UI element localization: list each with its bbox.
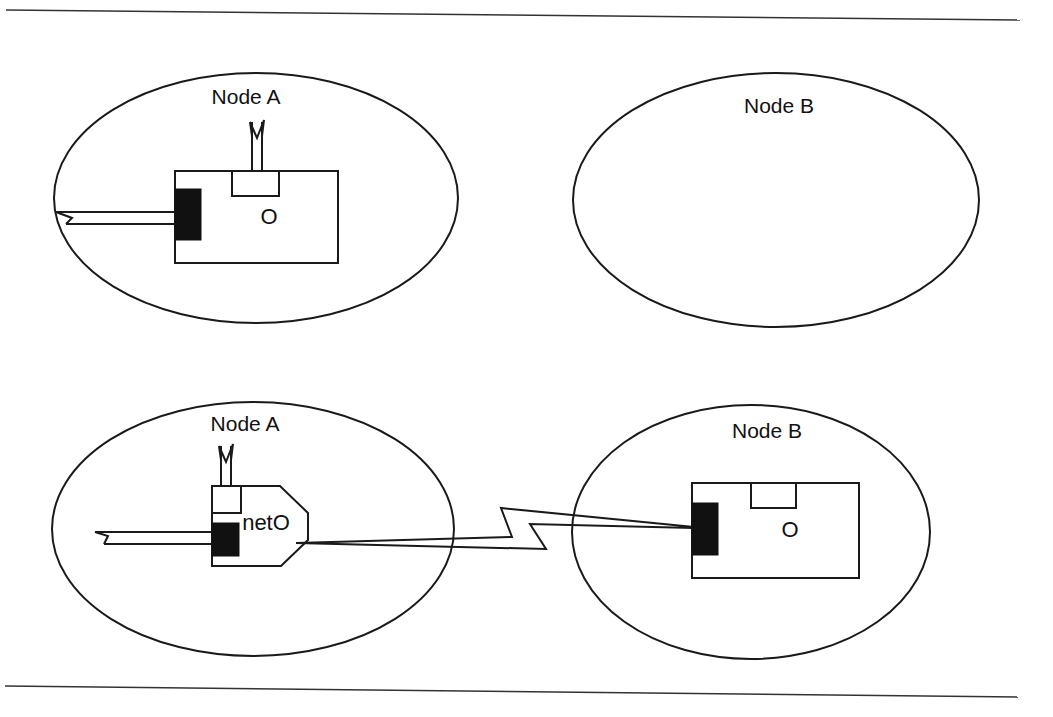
panel-after: Node A netO Node B O xyxy=(52,402,930,659)
node-a-label: Node A xyxy=(212,85,281,108)
object-label: O xyxy=(781,517,798,542)
incoming-wire xyxy=(95,532,212,544)
interface-slot xyxy=(232,171,279,196)
port-block xyxy=(175,189,201,240)
antenna-icon xyxy=(250,120,264,171)
node-b-label: Node B xyxy=(744,94,814,117)
diagram-canvas: Node A O Node B Node A xyxy=(0,0,1053,717)
proxy-label: netO xyxy=(242,510,290,535)
node-a-bottom: Node A netO xyxy=(52,402,454,656)
interface-slot xyxy=(751,483,796,508)
panel-before: Node A O Node B xyxy=(54,73,979,327)
node-b-label: Node B xyxy=(732,419,802,442)
node-b-top: Node B xyxy=(573,73,979,327)
node-a-top: Node A O xyxy=(54,73,458,323)
top-rule xyxy=(6,10,1020,20)
interface-slot xyxy=(212,486,241,513)
node-a-label: Node A xyxy=(211,412,280,435)
incoming-wire xyxy=(56,212,175,224)
port-block xyxy=(212,523,239,556)
antenna-icon xyxy=(219,444,233,486)
network-link-icon xyxy=(296,508,694,549)
object-label: O xyxy=(260,204,277,229)
port-block xyxy=(692,503,718,555)
node-b-bottom: Node B O xyxy=(572,405,930,659)
bottom-rule xyxy=(5,686,1018,697)
